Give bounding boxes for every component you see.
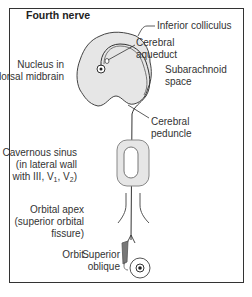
- label-nucleus: Nucleus in dorsal midbrain: [0, 59, 64, 83]
- label-cavernous-sinus: Cavernous sinus (in lateral wall with II…: [3, 147, 77, 183]
- label-cerebral-aqueduct: Cerebral aqueduct: [136, 37, 177, 61]
- leader-peduncle: [128, 105, 149, 118]
- leader-inferior-colliculus: [138, 26, 155, 36]
- label-cerebral-peduncle: Cerebral peduncle: [151, 116, 192, 140]
- aqueduct-oval: [105, 59, 109, 64]
- label-subarachnoid-space: Subarachnoid space: [165, 64, 227, 88]
- label-inferior-colliculus: Inferior colliculus: [157, 20, 231, 32]
- superior-oblique-muscle: [122, 241, 128, 264]
- label-superior-oblique: Superior oblique: [82, 249, 120, 273]
- orbital-apex-wall-left: [118, 193, 126, 223]
- label-orbit: Orbit: [62, 249, 84, 261]
- label-orbital-apex: Orbital apex (superior orbital fissure): [15, 204, 84, 240]
- orbital-apex-wall-right: [140, 193, 149, 223]
